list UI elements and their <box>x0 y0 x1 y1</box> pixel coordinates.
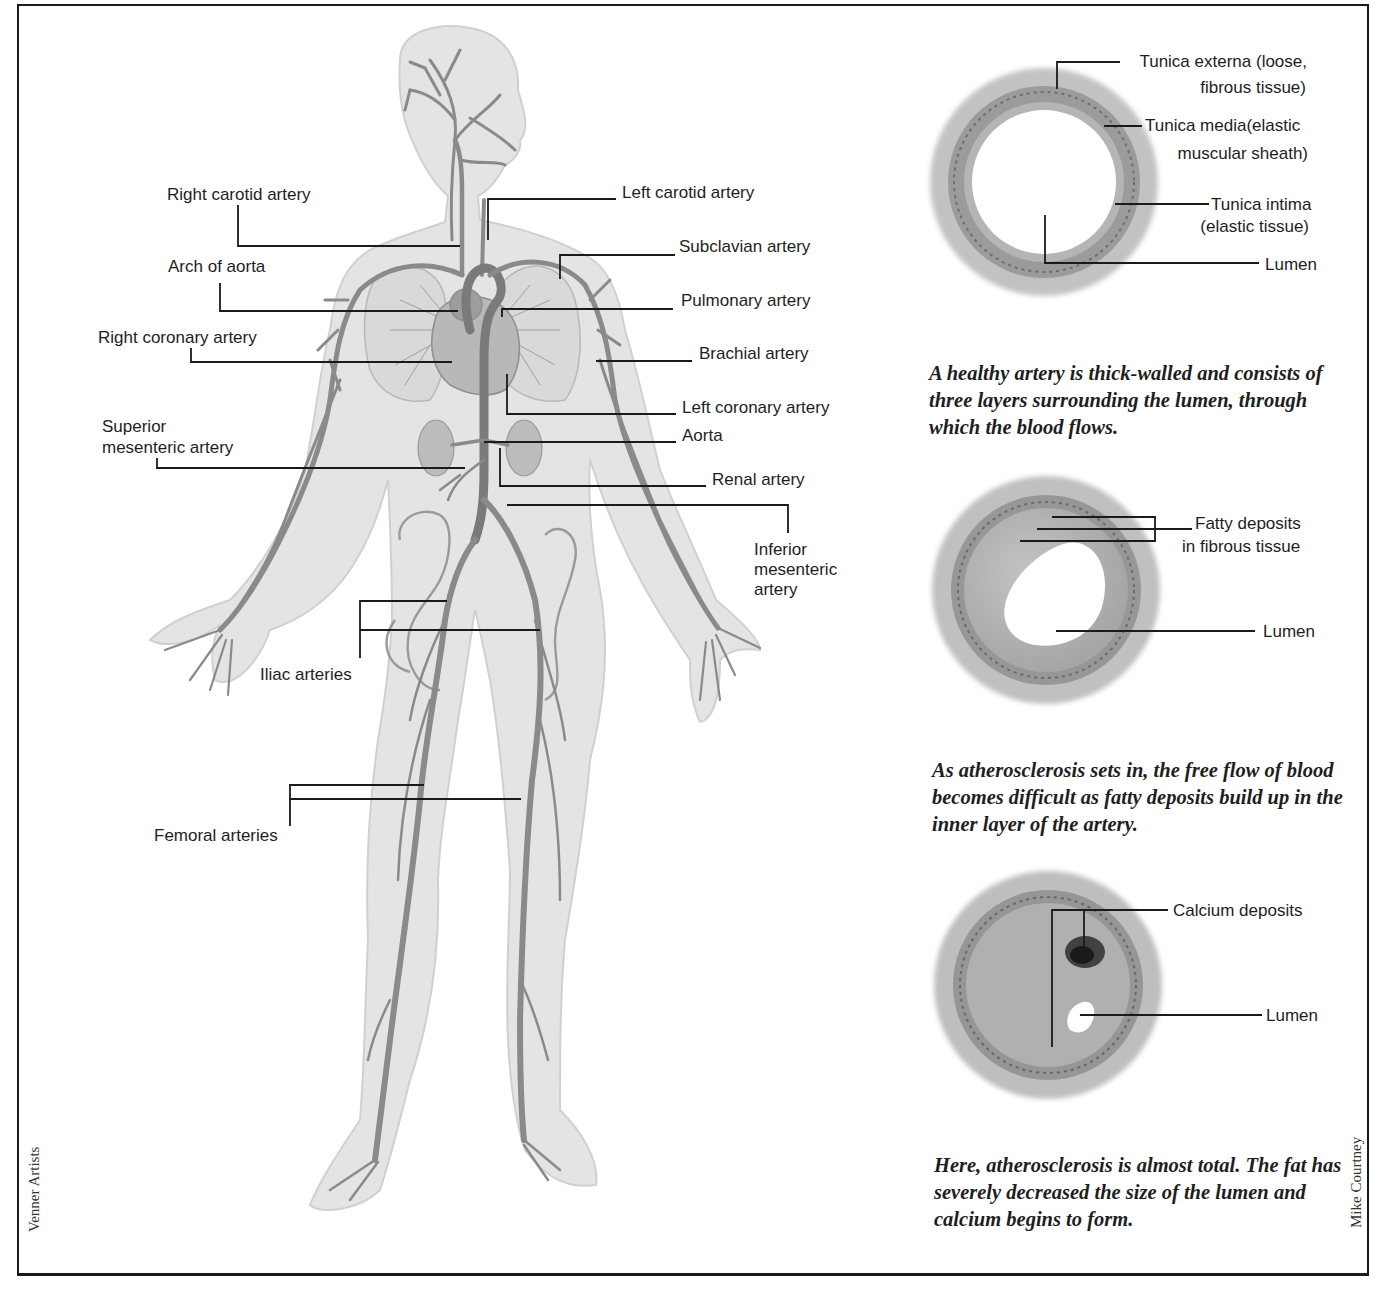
label-arch-of-aorta: Arch of aorta <box>168 256 265 277</box>
label-inferior-mesenteric-line3: artery <box>754 579 797 600</box>
label-superior-mesenteric-line2: mesenteric artery <box>102 437 233 458</box>
label-femoral-arteries: Femoral arteries <box>154 825 278 846</box>
label-healthy-lumen: Lumen <box>1265 254 1317 275</box>
label-left-carotid-artery: Left carotid artery <box>622 182 754 203</box>
label-tunica-intima-line2: (elastic tissue) <box>1200 216 1309 237</box>
label-subclavian-artery: Subclavian artery <box>679 236 810 257</box>
label-fatty-deposits-line1: Fatty deposits <box>1195 513 1301 534</box>
fatty-artery-cross-section <box>932 476 1160 704</box>
calcified-artery-cross-section <box>934 871 1162 1099</box>
credit-right: Mike Courtney <box>1348 1137 1365 1228</box>
label-fatty-deposits-line2: in fibrous tissue <box>1182 536 1300 557</box>
label-tunica-externa-line1: Tunica externa (loose, <box>1139 51 1307 72</box>
label-calcified-lumen: Lumen <box>1266 1005 1318 1026</box>
label-calcium-deposits: Calcium deposits <box>1173 900 1302 921</box>
label-pulmonary-artery: Pulmonary artery <box>681 290 810 311</box>
label-tunica-media-line2: muscular sheath) <box>1178 143 1308 164</box>
label-tunica-intima-line1: Tunica intima <box>1211 194 1311 215</box>
label-right-carotid-artery: Right carotid artery <box>167 184 311 205</box>
label-brachial-artery: Brachial artery <box>699 343 809 364</box>
credit-left: Venner Artists <box>26 1147 43 1232</box>
label-superior-mesenteric-line1: Superior <box>102 416 166 437</box>
label-aorta: Aorta <box>682 425 723 446</box>
label-inferior-mesenteric-line1: Inferior <box>754 539 807 560</box>
healthy-artery-cross-section <box>930 68 1158 296</box>
label-right-coronary-artery: Right coronary artery <box>98 327 257 348</box>
label-fatty-lumen: Lumen <box>1263 621 1315 642</box>
label-iliac-arteries: Iliac arteries <box>260 664 352 685</box>
caption-healthy-artery: A healthy artery is thick-walled and con… <box>929 360 1349 441</box>
caption-early-atherosclerosis: As atherosclerosis sets in, the free flo… <box>932 757 1352 838</box>
label-tunica-media-line1: Tunica media(elastic <box>1145 115 1300 136</box>
label-inferior-mesenteric-line2: mesenteric <box>754 559 837 580</box>
label-tunica-externa-line2: fibrous tissue) <box>1200 77 1306 98</box>
label-renal-artery: Renal artery <box>712 469 805 490</box>
caption-advanced-atherosclerosis: Here, atherosclerosis is almost total. T… <box>934 1152 1344 1233</box>
label-left-coronary-artery: Left coronary artery <box>682 397 829 418</box>
